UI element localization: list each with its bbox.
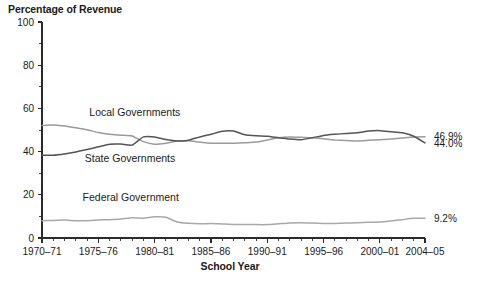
x-tick-label: 1970–71 xyxy=(23,246,62,257)
series-label-federal-government: Federal Government xyxy=(83,191,179,203)
series-end-value-labels: 46.9%44.0%9.2% xyxy=(434,131,462,223)
y-tick-label: 60 xyxy=(23,103,35,114)
series-inline-labels: Local GovernmentsState GovernmentsFedera… xyxy=(83,106,181,203)
series-line-local-governments xyxy=(42,125,425,144)
end-value-state-governments: 44.0% xyxy=(434,138,462,149)
revenue-percentage-chart: Percentage of Revenue 020406080100 1970–… xyxy=(0,0,488,281)
series-label-local-governments: Local Governments xyxy=(89,106,180,118)
chart-plot-area: 020406080100 1970–711975–761980–811985–8… xyxy=(0,0,488,281)
x-tick-label: 1975–76 xyxy=(79,246,118,257)
x-tick-label: 1990–91 xyxy=(248,246,287,257)
x-tick-label: 1995–96 xyxy=(304,246,343,257)
series-label-state-governments: State Governments xyxy=(85,152,175,164)
series-line-federal-government xyxy=(42,217,425,225)
x-tick-label: 2004–05 xyxy=(406,246,445,257)
y-tick-label: 20 xyxy=(23,189,35,200)
y-axis: 020406080100 xyxy=(17,17,42,244)
end-value-federal-government: 9.2% xyxy=(434,213,457,224)
x-axis-title: School Year xyxy=(0,260,460,272)
x-tick-label: 2000–01 xyxy=(360,246,399,257)
x-tick-label: 1985–86 xyxy=(192,246,231,257)
y-tick-label: 100 xyxy=(17,17,34,28)
data-series-group xyxy=(42,125,425,225)
y-tick-label: 40 xyxy=(23,146,35,157)
y-tick-label: 80 xyxy=(23,60,35,71)
x-axis: 1970–711975–761980–811985–861990–911995–… xyxy=(23,238,445,257)
x-tick-label: 1980–81 xyxy=(135,246,174,257)
y-tick-label: 0 xyxy=(28,233,34,244)
